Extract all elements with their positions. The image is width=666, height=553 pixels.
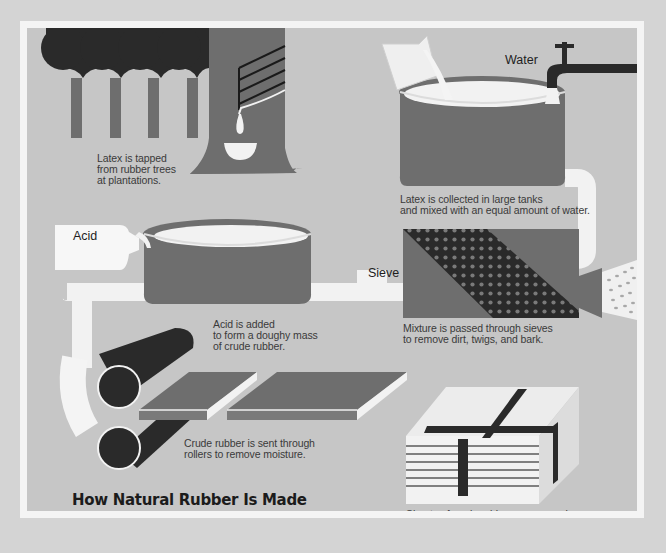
pipe-to-rollers-icon xyxy=(73,358,87,430)
debris-spray-icon xyxy=(602,260,637,320)
caption-bales: Sheets of crude rubber are pressed into … xyxy=(406,509,586,518)
caption-latex-collection: Latex is collected in large tanks and mi… xyxy=(400,194,590,216)
diagram-title: How Natural Rubber Is Made xyxy=(72,491,307,509)
sieve-label: Sieve xyxy=(368,266,399,280)
acid-tank-icon xyxy=(143,219,311,304)
caption-sieving: Mixture is passed through sieves to remo… xyxy=(403,323,553,345)
caption-latex-tapping: Latex is tapped from rubber trees at pla… xyxy=(97,153,176,186)
acid-bottle-icon xyxy=(55,225,151,270)
process-illustration xyxy=(27,28,637,511)
collection-tank-icon xyxy=(399,76,565,186)
water-label: Water xyxy=(505,53,538,67)
rubber-sheets-icon xyxy=(139,372,407,420)
sieve-icon xyxy=(403,229,602,318)
caption-acid-added: Acid is added to form a doughy mass of c… xyxy=(213,319,318,352)
diagram-frame: Latex is tapped from rubber trees at pla… xyxy=(20,21,644,518)
caption-rollers: Crude rubber is sent through rollers to … xyxy=(184,438,315,460)
rubber-trees-icon xyxy=(41,28,209,138)
acid-label: Acid xyxy=(73,229,97,243)
rubber-bale-icon xyxy=(406,387,579,504)
